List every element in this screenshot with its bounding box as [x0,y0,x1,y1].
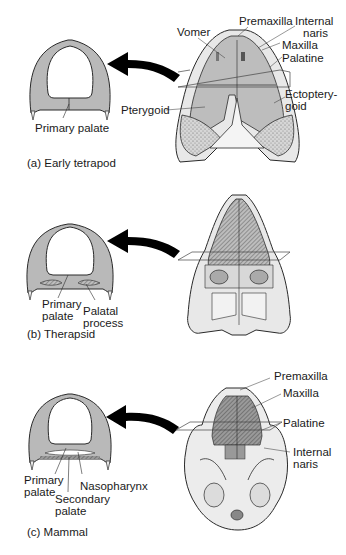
caption-mammal: (c) Mammal [27,526,88,538]
label-maxilla-a: Maxilla [282,39,318,51]
panel-early-tetrapod: Primary palate Premaxilla Internal naris… [0,0,346,185]
label-internal-naris-a-line2: naris [303,27,328,39]
label-primary-palate-b-line2: palate [42,310,73,322]
label-palatine-c: Palatine [283,417,325,429]
arrow-icon [107,229,180,258]
label-ectopterygoid-a-line2: goid [285,100,307,112]
label-premaxilla-c: Premaxilla [274,370,328,382]
cross-section-a [30,40,110,120]
skull-early-tetrapod [166,26,299,162]
label-internal-naris-c-line1: Internal [293,446,331,458]
label-primary-palate-c-line2: palate [24,486,55,498]
panel-therapsid: Primary palate Palatal process (b) Thera… [0,185,346,370]
label-internal-naris-c-line2: naris [293,458,318,470]
label-vomer-a: Vomer [177,26,210,38]
label-nasopharynx-c: Nasopharynx [80,480,148,492]
label-internal-naris-a-line1: Internal [295,15,333,27]
label-primary-palate-c-line1: Primary [24,474,64,486]
label-pterygoid-a: Pterygoid [121,104,170,116]
arrow-icon [107,52,180,82]
caption-early-tetrapod: (a) Early tetrapod [27,157,116,169]
caption-therapsid: (b) Therapsid [27,328,95,340]
tooth-left [31,111,35,120]
label-premaxilla-a: Premaxilla [239,15,293,27]
label-maxilla-c: Maxilla [283,387,319,399]
label-primary-palate-b-line1: Primary [42,298,82,310]
panel-mammal: Premaxilla Maxilla Palatine Internal nar… [0,370,346,555]
panel-b-graphics [0,185,346,370]
secondary-palate-shape [40,456,100,459]
label-palatine-a: Palatine [282,52,324,64]
skull-mammal [176,378,290,530]
label-ectopterygoid-a-line1: Ectoptery- [285,88,337,100]
cross-section-b [27,224,113,300]
arrow-icon [106,405,179,434]
tooth-right [105,111,109,120]
label-palatal-process-b-line1: Palatal [83,305,118,317]
label-secondary-palate-c-line2: palate [55,505,86,517]
label-primary-palate-a: Primary palate [35,122,109,134]
skull-therapsid [178,195,290,335]
label-secondary-palate-c-line1: Secondary [55,493,110,505]
